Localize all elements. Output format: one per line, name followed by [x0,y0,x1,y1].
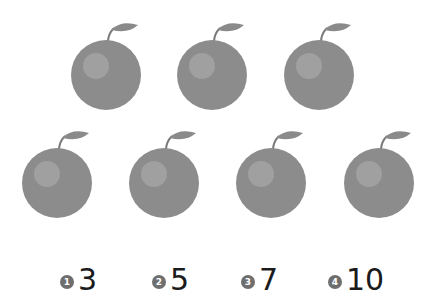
option-badge: 4 [328,275,342,289]
option-1[interactable]: 1 3 [60,262,97,298]
option-value: 7 [259,262,278,298]
option-2[interactable]: 2 5 [152,262,189,298]
apple-icon [343,128,417,218]
apple-icon [176,20,250,110]
apple-icon [21,128,95,218]
option-badge: 1 [60,275,74,289]
apple-icon [128,128,202,218]
apple-icon [70,20,144,110]
option-value: 3 [78,262,97,298]
option-badge: 2 [152,275,166,289]
option-4[interactable]: 4 10 [328,262,384,298]
apple-icon [235,128,309,218]
option-badge: 3 [241,275,255,289]
option-value: 10 [346,262,384,298]
option-3[interactable]: 3 7 [241,262,278,298]
apple-icon [283,20,357,110]
option-value: 5 [170,262,189,298]
